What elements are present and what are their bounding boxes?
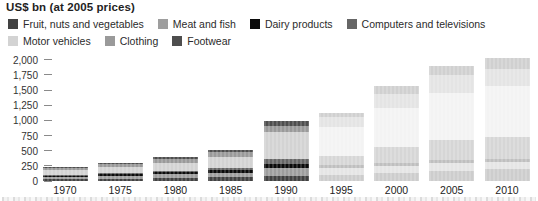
y-tick-mark: [44, 120, 52, 121]
segment-clothing: [374, 94, 419, 108]
legend-swatch-fruit-nuts-and-vegetables: [8, 19, 18, 29]
y-tick-mark: [44, 165, 52, 166]
x-label-1975: 1975: [97, 184, 143, 196]
segment-fruit-nuts-and-vegetables: [319, 175, 364, 181]
y-tick-label: 250: [0, 160, 38, 171]
bar-1980: [153, 157, 198, 181]
y-tick-label: 1,000: [0, 115, 38, 126]
segment-computers-and-televisions: [374, 147, 419, 163]
segment-computers-and-televisions: [429, 140, 474, 160]
legend-swatch-clothing: [105, 36, 115, 46]
segment-clothing: [319, 117, 364, 127]
y-tick-label: 1,500: [0, 85, 38, 96]
segment-motor-vehicles: [208, 157, 253, 168]
x-label-1995: 1995: [318, 184, 364, 196]
segment-footwear: [485, 58, 530, 68]
segment-fruit-nuts-and-vegetables: [208, 177, 253, 181]
legend-label: Motor vehicles: [23, 35, 91, 47]
y-tick-label: 1,250: [0, 100, 38, 111]
segment-fruit-nuts-and-vegetables: [153, 178, 198, 181]
legend-row-1: Fruit, nuts and vegetablesMeat and fishD…: [8, 18, 485, 30]
bar-1985: [208, 150, 253, 181]
legend-item-computers-and-televisions: Computers and televisions: [347, 18, 486, 30]
segment-fruit-nuts-and-vegetables: [43, 179, 88, 181]
segment-fruit-nuts-and-vegetables: [98, 179, 143, 181]
y-tick-label: 2,000: [0, 54, 38, 65]
segment-computers-and-televisions: [485, 137, 530, 159]
segment-clothing: [429, 75, 474, 93]
segment-motor-vehicles: [429, 93, 474, 140]
segment-motor-vehicles: [485, 86, 530, 138]
segment-motor-vehicles: [264, 132, 309, 159]
y-tick-mark: [44, 59, 52, 60]
segment-clothing: [485, 69, 530, 86]
legend-item-motor-vehicles: Motor vehicles: [8, 35, 91, 47]
y-tick-mark: [44, 90, 52, 91]
bar-2005: [429, 66, 474, 181]
segment-meat-and-fish: [374, 166, 419, 173]
legend-item-fruit-nuts-and-vegetables: Fruit, nuts and vegetables: [8, 18, 144, 30]
segment-footwear: [429, 66, 474, 75]
legend-item-meat-and-fish: Meat and fish: [158, 18, 236, 30]
segment-fruit-nuts-and-vegetables: [264, 176, 309, 181]
legend-label: Fruit, nuts and vegetables: [23, 18, 144, 30]
y-tick-label: 750: [0, 130, 38, 141]
y-tick-mark: [44, 135, 52, 136]
x-label-2000: 2000: [374, 184, 420, 196]
legend-swatch-computers-and-televisions: [347, 19, 357, 29]
y-tick-label: 500: [0, 145, 38, 156]
segment-fruit-nuts-and-vegetables: [429, 171, 474, 181]
legend-item-footwear: Footwear: [172, 35, 231, 47]
legend-item-clothing: Clothing: [105, 35, 159, 47]
legend-label: Computers and televisions: [362, 18, 486, 30]
x-label-1980: 1980: [153, 184, 199, 196]
bar-1970: [43, 167, 88, 181]
legend-item-dairy-products: Dairy products: [250, 18, 333, 30]
bar-1990: [264, 121, 309, 181]
legend-swatch-meat-and-fish: [158, 19, 168, 29]
y-tick-label: 0: [0, 176, 38, 187]
segment-meat-and-fish: [485, 162, 530, 169]
bar-2010: [485, 58, 530, 181]
segment-motor-vehicles: [153, 163, 198, 171]
legend-swatch-dairy-products: [250, 19, 260, 29]
segment-meat-and-fish: [319, 168, 364, 175]
legend-row-2: Motor vehiclesClothingFootwear: [8, 35, 231, 47]
segment-fruit-nuts-and-vegetables: [374, 173, 419, 181]
chart-title: US$ bn (at 2005 prices): [6, 1, 135, 13]
legend-label: Meat and fish: [173, 18, 236, 30]
legend-label: Dairy products: [265, 18, 333, 30]
bar-1995: [319, 113, 364, 181]
x-label-2010: 2010: [484, 184, 530, 196]
x-label-1990: 1990: [263, 184, 309, 196]
x-label-2005: 2005: [429, 184, 475, 196]
x-label-1985: 1985: [208, 184, 254, 196]
segment-footwear: [374, 86, 419, 94]
legend-swatch-motor-vehicles: [8, 36, 18, 46]
segment-motor-vehicles: [319, 127, 364, 156]
y-tick-mark: [44, 105, 52, 106]
segment-motor-vehicles: [374, 108, 419, 147]
chart-figure: US$ bn (at 2005 prices) Fruit, nuts and …: [0, 0, 538, 201]
x-label-1970: 1970: [42, 184, 88, 196]
legend-swatch-footwear: [172, 36, 182, 46]
bar-2000: [374, 86, 419, 181]
segment-computers-and-televisions: [319, 156, 364, 165]
y-tick-label: 1,750: [0, 69, 38, 80]
segment-meat-and-fish: [429, 163, 474, 170]
segment-fruit-nuts-and-vegetables: [485, 169, 530, 181]
bar-1975: [98, 163, 143, 181]
legend-label: Footwear: [187, 35, 231, 47]
y-tick-mark: [44, 74, 52, 75]
cropped-caption-remnant: [2, 197, 536, 201]
y-tick-mark: [44, 150, 52, 151]
legend-label: Clothing: [120, 35, 159, 47]
segment-meat-and-fish: [264, 168, 309, 177]
